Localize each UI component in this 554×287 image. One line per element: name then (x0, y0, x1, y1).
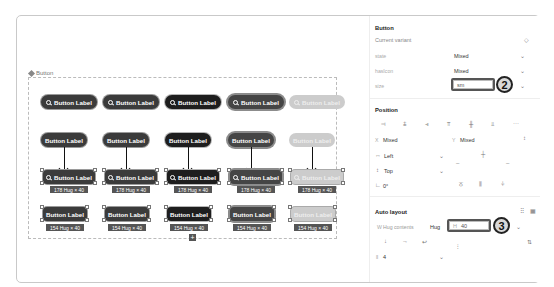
resize-handle[interactable] (288, 181, 292, 185)
constrain-proportions-icon[interactable]: ↕ (523, 135, 526, 141)
button-variant[interactable]: Button Label (289, 95, 345, 109)
button-variant-selected[interactable]: Button Label (230, 170, 282, 184)
resize-handle[interactable] (102, 181, 106, 185)
horizontal-constraint-select[interactable]: Left (384, 153, 393, 159)
button-variant[interactable]: Button Label (103, 95, 159, 109)
resize-handle[interactable] (85, 218, 89, 222)
resize-handle[interactable] (272, 205, 276, 209)
flip-horizontal-icon[interactable]: ⫼ (479, 181, 482, 188)
align-center-v-icon[interactable]: ╫ (469, 121, 473, 127)
resize-handle[interactable] (280, 181, 284, 185)
button-variant-selected[interactable]: Button Label (105, 207, 149, 221)
resize-handle[interactable] (341, 181, 345, 185)
resize-handle[interactable] (280, 168, 284, 172)
chevron-down-icon[interactable]: ⌄ (520, 52, 525, 59)
constraint-widget-icon[interactable]: ┼ (481, 151, 485, 157)
x-value[interactable]: Mixed (383, 137, 398, 143)
resize-handle[interactable] (85, 205, 89, 209)
button-variant[interactable]: Button Label (228, 95, 284, 109)
resize-handle[interactable] (227, 168, 231, 172)
resize-handle[interactable] (217, 168, 221, 172)
button-variant[interactable]: Button Label (41, 95, 97, 109)
button-variant[interactable]: Button Label (165, 133, 211, 147)
constraint-left-bar[interactable]: – (456, 160, 459, 166)
flip-vertical-icon[interactable]: ⫩ (501, 181, 504, 188)
remove-auto-layout-icon[interactable]: ▦ (530, 207, 536, 214)
align-right-icon[interactable]: ⫣ (425, 121, 429, 128)
rotate-icon[interactable]: ਠ (459, 181, 463, 188)
resize-handle[interactable] (102, 218, 106, 222)
resize-handle[interactable] (102, 168, 106, 172)
resize-handle[interactable] (147, 205, 151, 209)
resize-handle[interactable] (102, 205, 106, 209)
resize-handle[interactable] (93, 181, 97, 185)
resize-handle[interactable] (40, 181, 44, 185)
chevron-down-icon[interactable]: ⌄ (516, 223, 521, 230)
resize-handle[interactable] (333, 218, 337, 222)
chevron-down-icon[interactable]: ⌄ (520, 82, 525, 89)
add-variant-button[interactable]: + (189, 234, 196, 241)
align-bottom-icon[interactable]: ⫫ (491, 121, 494, 128)
resize-handle[interactable] (164, 205, 168, 209)
constraint-right-bar[interactable]: – (506, 160, 509, 166)
y-value[interactable]: Mixed (460, 137, 475, 143)
button-variant[interactable]: Button Label (41, 133, 87, 147)
chevron-down-icon[interactable]: ⌄ (439, 152, 444, 159)
alignment-grid-icon[interactable]: ⫶ (457, 244, 459, 251)
gap-value[interactable]: 4 (383, 254, 386, 260)
frame-label[interactable]: Button (29, 70, 53, 76)
advanced-layout-icon[interactable]: ⇅ (527, 238, 532, 245)
resize-handle[interactable] (209, 205, 213, 209)
button-variant[interactable]: Button Label (289, 133, 335, 147)
resize-handle[interactable] (288, 205, 292, 209)
button-variant-selected[interactable]: Button Label (43, 207, 87, 221)
resize-handle[interactable] (164, 168, 168, 172)
resize-handle[interactable] (155, 181, 159, 185)
align-left-icon[interactable]: ⫤ (381, 121, 386, 128)
resize-handle[interactable] (40, 205, 44, 209)
align-center-h-icon[interactable]: ⩲ (403, 121, 407, 128)
chevron-down-icon[interactable]: ⌄ (439, 167, 444, 174)
chevron-down-icon[interactable]: ⌄ (439, 253, 444, 260)
button-variant[interactable]: Button Label (165, 95, 221, 109)
resize-handle[interactable] (40, 218, 44, 222)
button-variant[interactable]: Button Label (103, 133, 149, 147)
resize-handle[interactable] (288, 218, 292, 222)
width-mode[interactable]: Hug (430, 224, 440, 230)
resize-handle[interactable] (155, 168, 159, 172)
resize-handle[interactable] (217, 181, 221, 185)
button-variant-selected[interactable]: Button Label (43, 170, 95, 184)
design-canvas[interactable]: Button Button Label Button Label Button … (17, 16, 369, 282)
resize-handle[interactable] (227, 181, 231, 185)
resize-handle[interactable] (164, 218, 168, 222)
more-options-icon[interactable]: ··· (513, 120, 519, 126)
resize-handle[interactable] (164, 181, 168, 185)
resize-handle[interactable] (209, 218, 213, 222)
resize-handle[interactable] (93, 168, 97, 172)
resize-handle[interactable] (227, 205, 231, 209)
button-variant-selected[interactable]: Button Label (167, 207, 211, 221)
resize-handle[interactable] (227, 218, 231, 222)
button-variant-selected[interactable]: Button Label (291, 207, 335, 221)
resize-handle[interactable] (147, 218, 151, 222)
resize-handle[interactable] (272, 218, 276, 222)
width-value[interactable]: Hug contents (383, 224, 414, 230)
resize-handle[interactable] (333, 205, 337, 209)
resize-handle[interactable] (40, 168, 44, 172)
rotation-value[interactable]: 0° (383, 183, 388, 189)
diamond-outline-icon[interactable]: ◇ (524, 36, 529, 43)
size-select-highlighted[interactable]: sm (451, 78, 495, 91)
button-variant-selected[interactable]: Button Label (105, 170, 157, 184)
button-variant-selected[interactable]: Button Label (230, 207, 274, 221)
direction-horizontal-icon[interactable]: → (402, 238, 408, 244)
chevron-down-icon[interactable]: ⌄ (520, 67, 525, 74)
button-variant-selected[interactable]: Button Label (167, 170, 219, 184)
align-top-icon[interactable]: ⫪ (447, 121, 450, 128)
prop-value-state[interactable]: Mixed (454, 53, 469, 59)
button-variant-selected[interactable]: Button Label (291, 170, 343, 184)
grid-view-icon[interactable]: ⠿ (520, 207, 524, 214)
vertical-constraint-select[interactable]: Top (384, 168, 393, 174)
prop-value-hasicon[interactable]: Mixed (454, 68, 469, 74)
resize-handle[interactable] (341, 168, 345, 172)
height-input-highlighted[interactable]: H 40 (447, 219, 491, 232)
